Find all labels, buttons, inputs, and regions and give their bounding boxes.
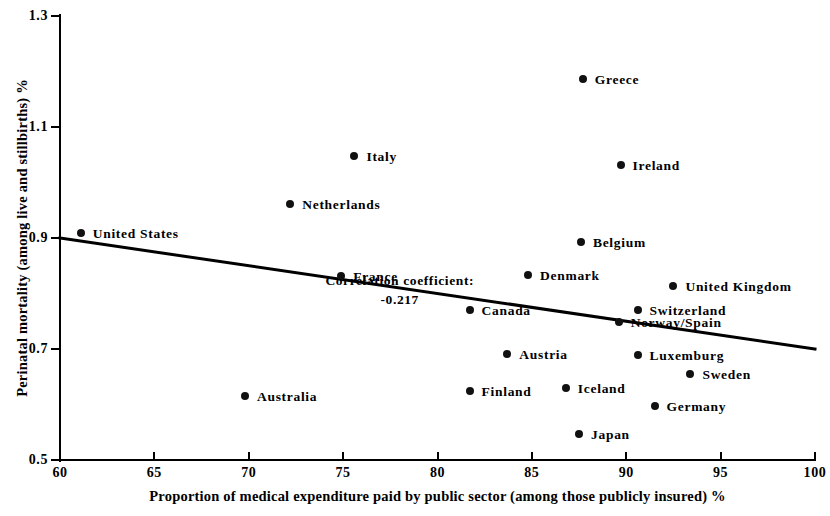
annotation-line-2: -0.217 [310,291,490,309]
data-point [77,229,85,237]
data-point-label: Sweden [702,368,750,382]
data-point-label: United States [93,227,179,241]
data-point-label: Japan [591,428,630,442]
data-point-label: United Kingdom [685,280,791,294]
annotation-line-1: Correlation coefficient: [325,273,474,288]
data-point [466,387,474,395]
data-point-label: Greece [595,73,639,87]
data-point [634,306,642,314]
x-axis-title: Proportion of medical expenditure paid b… [60,488,815,505]
data-point-label: Denmark [540,269,600,283]
data-point-label: Germany [667,400,727,414]
data-point [617,161,625,169]
data-point-label: Netherlands [302,198,380,212]
data-point [651,402,659,410]
data-point-label: Finland [482,385,532,399]
data-point [634,351,642,359]
data-point-label: Iceland [578,382,626,396]
data-point [241,392,249,400]
data-point [577,238,585,246]
correlation-annotation: Correlation coefficient:-0.217 [310,272,490,308]
data-point-label: Austria [519,348,567,362]
data-point-label: Italy [366,150,397,164]
data-point-label: Belgium [593,236,646,250]
data-point [524,271,532,279]
data-point-label: Luxemburg [650,349,725,363]
data-point-label: Australia [257,390,317,404]
data-point-label: Ireland [633,159,680,173]
data-point-label: Norway/Spain [631,316,722,330]
data-point [286,200,294,208]
